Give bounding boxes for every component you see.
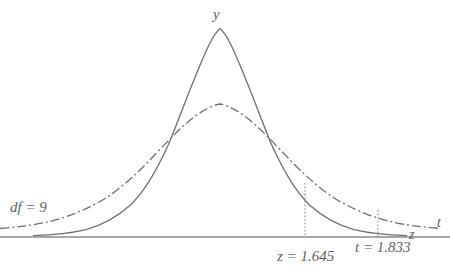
z-critical-value-label: z = 1.645 [277,249,334,264]
y-curve-label: y [213,7,220,22]
distribution-plot [0,0,450,275]
statistics-figure: y df = 9 t z z = 1.645 t = 1.833 [0,0,450,275]
t-distribution-curve [0,104,440,228]
t-critical-value-label: t = 1.833 [355,240,411,255]
df-label: df = 9 [10,200,47,215]
normal-distribution-curve [33,29,407,236]
t-curve-tail-label: t [437,216,441,230]
